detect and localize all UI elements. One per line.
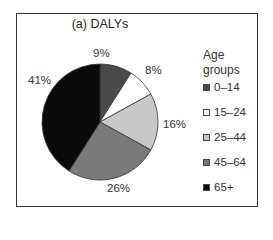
legend-item-65-plus: 65+ [203,181,234,193]
legend-item-25-44: 25–44 [203,131,246,143]
legend-swatch-icon [203,109,210,116]
legend-label: 65+ [214,181,234,193]
legend-label: 0–14 [214,81,240,93]
legend-swatch-icon [203,184,210,191]
legend-label: 15–24 [214,106,246,118]
legend-swatch-icon [203,159,210,166]
legend-title: Age groups [203,48,240,78]
legend-item-45-64: 45–64 [203,156,246,168]
legend-swatch-icon [203,134,210,141]
pie-slices [42,64,158,180]
slice-label-65-plus: 41% [28,74,51,86]
slice-label-15-24: 8% [145,64,162,76]
legend-item-0-14: 0–14 [203,81,240,93]
slice-label-0-14: 9% [93,47,110,59]
legend-title-line1: Age [203,48,240,63]
legend-item-15-24: 15–24 [203,106,246,118]
legend-label: 45–64 [214,156,246,168]
legend-title-line2: groups [203,63,240,78]
slice-label-45-64: 26% [107,182,130,194]
slice-label-25-44: 16% [163,118,186,130]
legend-swatch-icon [203,84,210,91]
legend-label: 25–44 [214,131,246,143]
